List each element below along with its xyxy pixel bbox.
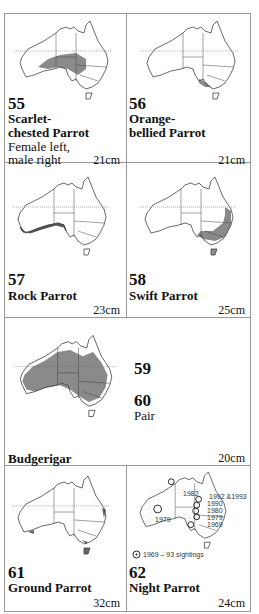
species-name: Orange-: [129, 112, 175, 126]
species-number: 60: [134, 392, 151, 409]
sighting-label: 1979: [207, 514, 223, 521]
sighting-label: 1979: [155, 516, 171, 523]
species-name: Night Parrot: [129, 581, 200, 595]
species-name: Ground Parrot: [8, 581, 92, 595]
species-name: bellied Parrot: [129, 126, 206, 140]
species-card-59-60: 59 60 Pair Budgerigar 20cm: [4, 318, 251, 465]
sighting-label: 1980: [207, 507, 223, 514]
species-card-62: 1982 1992 &1993 1990 1980 1979 1969 1979…: [127, 466, 251, 612]
species-size: 23cm: [93, 304, 120, 316]
species-note: Pair: [134, 409, 155, 423]
sighting-label: 1969: [207, 521, 223, 528]
species-size: 20cm: [218, 452, 245, 464]
species-number: 59: [134, 360, 151, 377]
species-card-55: 55 Scarlet- chested Parrot Female left, …: [4, 13, 126, 162]
species-card-58: 58 Swift Parrot 25cm: [127, 163, 251, 317]
range-map: [141, 19, 241, 101]
species-name: Swift Parrot: [129, 289, 198, 303]
species-size: 25cm: [218, 304, 245, 316]
species-name: Rock Parrot: [8, 289, 77, 303]
species-card-61: 61 Ground Parrot 32cm: [4, 466, 126, 612]
sighting-label: 1982: [183, 490, 199, 497]
species-name: chested Parrot: [8, 126, 89, 140]
species-number: 58: [129, 271, 146, 288]
species-size: 32cm: [93, 597, 120, 609]
range-map: [12, 175, 112, 257]
sighting-label: 1990: [207, 500, 223, 507]
species-name: Scarlet-: [8, 112, 51, 126]
species-name: Budgerigar: [8, 452, 72, 466]
species-number: 62: [129, 564, 146, 581]
range-map: [139, 175, 239, 257]
species-card-56: 56 Orange- bellied Parrot 21cm: [127, 13, 251, 162]
species-number: 55: [8, 95, 25, 112]
species-number: 57: [8, 271, 25, 288]
sighting-marker-icon: [132, 550, 141, 559]
sighting-legend: 1969 – 93 sightings: [143, 551, 204, 558]
species-card-57: 57 Rock Parrot 23cm: [4, 163, 126, 317]
range-map: [14, 324, 118, 428]
sighting-label: 1992 &1993: [209, 493, 247, 500]
species-number: 56: [129, 95, 146, 112]
species-number: 61: [8, 564, 25, 581]
range-map: [12, 470, 112, 560]
range-map: [14, 19, 114, 101]
species-size: 24cm: [218, 597, 245, 609]
